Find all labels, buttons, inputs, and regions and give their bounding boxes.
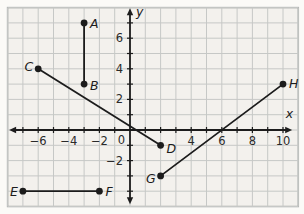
x-tick-label-8: 8 [249, 134, 256, 148]
point-label-B: B [90, 78, 99, 93]
point-label-G: G [146, 171, 156, 186]
x-tick-label-4: 4 [188, 134, 195, 148]
y-axis-label: y [135, 4, 144, 19]
x-tick-label--2: −2 [91, 134, 108, 148]
coordinate-plane-figure: −6−4−246810642−20xyABCDEFGH [0, 0, 304, 214]
x-tick-label-10: 10 [276, 134, 291, 148]
point-label-H: H [289, 76, 299, 91]
point-C [35, 65, 42, 72]
x-axis-label: x [285, 106, 294, 121]
x-tick-label--6: −6 [30, 134, 47, 148]
y-tick-label-6: 6 [116, 31, 123, 45]
x-tick-label-6: 6 [218, 134, 225, 148]
x-tick-label--4: −4 [60, 134, 77, 148]
point-label-E: E [10, 184, 18, 199]
point-label-A: A [89, 16, 99, 31]
point-F [96, 188, 103, 195]
y-tick-label--2: −2 [106, 154, 123, 168]
point-label-C: C [24, 59, 33, 74]
point-G [157, 173, 164, 180]
coordinate-plane-svg: −6−4−246810642−20xyABCDEFGH [0, 0, 304, 214]
point-B [81, 81, 88, 88]
point-D [157, 142, 164, 149]
point-label-F: F [105, 184, 113, 199]
y-tick-label-4: 4 [116, 62, 123, 76]
point-H [280, 81, 287, 88]
point-label-D: D [167, 141, 177, 156]
origin-label: 0 [118, 133, 125, 147]
y-tick-label-2: 2 [116, 92, 123, 106]
point-A [81, 20, 88, 27]
point-E [20, 188, 27, 195]
